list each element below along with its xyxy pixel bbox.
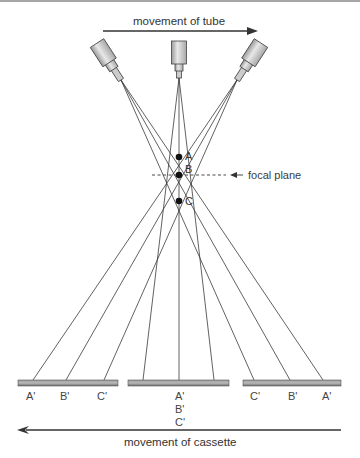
point-b xyxy=(176,172,183,179)
cassettes xyxy=(18,380,341,386)
point-c-label: C xyxy=(185,195,193,207)
cassette-center xyxy=(128,380,229,386)
point-c xyxy=(176,198,183,205)
cassette-right-label-a: A' xyxy=(322,390,331,402)
x-ray-tube-left xyxy=(90,39,127,85)
cassette-right xyxy=(243,380,341,386)
cassette-center-label-c: C' xyxy=(175,416,185,428)
x-ray-tube-center xyxy=(172,41,187,78)
focal-plane-line xyxy=(152,172,243,178)
tube-movement-arrow xyxy=(103,27,258,35)
cassette-center-label-a: A' xyxy=(175,390,184,402)
x-ray-tube-right xyxy=(230,39,267,85)
point-a xyxy=(176,154,183,161)
tube-movement-label: movement of tube xyxy=(133,15,225,27)
point-b-label: B xyxy=(185,163,192,175)
cassette-left-label-a: A' xyxy=(26,390,35,402)
point-a-label: A xyxy=(185,150,192,162)
cassette-left-label-c: C' xyxy=(97,390,107,402)
cassette-left-label-b: B' xyxy=(60,390,69,402)
cassette-left xyxy=(18,380,118,386)
cassette-right-label-c: C' xyxy=(250,390,260,402)
x-ray-beams xyxy=(33,78,323,380)
focal-plane-label: focal plane xyxy=(248,169,301,181)
cassette-right-label-b: B' xyxy=(288,390,297,402)
cassette-movement-label: movement of cassette xyxy=(124,436,237,448)
cassette-center-label-b: B' xyxy=(175,403,184,415)
